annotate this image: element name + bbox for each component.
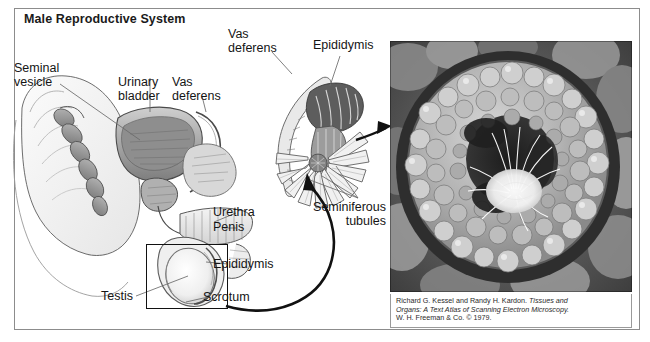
label-vas-deferens-left: Vas deferens (172, 76, 221, 103)
label-seminal-vesicle: Seminal vesicle (14, 62, 59, 89)
label-seminiferous-tubules: Seminiferous tubules (306, 201, 386, 228)
label-epididymis-top: Epididymis (313, 39, 373, 53)
seminiferous-tubule-micrograph (390, 41, 632, 292)
page-title: Male Reproductive System (24, 12, 185, 26)
label-epididymis-lower: Epididymis (213, 258, 273, 272)
micrograph-credit: Richard G. Kessel and Randy H. Kardon. T… (390, 294, 632, 328)
label-vas-deferens-top: Vas deferens (228, 28, 277, 55)
credit-line-3: W. H. Freeman & Co. © 1979. (396, 314, 627, 323)
label-urinary-bladder: Urinary bladder (118, 76, 160, 103)
label-scrotum: Scrotum (203, 291, 250, 305)
label-urethra: Urethra (213, 206, 255, 220)
label-penis: Penis (213, 221, 244, 235)
figure-root: Male Reproductive System (0, 0, 650, 342)
label-testis: Testis (101, 290, 133, 304)
